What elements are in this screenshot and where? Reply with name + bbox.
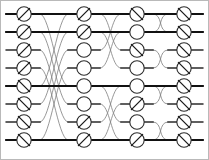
interstage-link bbox=[100, 86, 121, 122]
active-path-layer bbox=[6, 14, 203, 140]
switch-node-s3-r5[interactable] bbox=[130, 79, 144, 93]
switch-node-s4-r6[interactable] bbox=[177, 97, 191, 111]
switch-node-circle[interactable] bbox=[130, 61, 144, 75]
switch-node-layer bbox=[17, 7, 191, 147]
switch-node-s4-r1[interactable] bbox=[177, 7, 191, 21]
switch-node-s3-r4[interactable] bbox=[130, 61, 144, 75]
switch-node-s1-r8[interactable] bbox=[17, 133, 31, 147]
switch-node-s3-r3[interactable] bbox=[130, 43, 144, 57]
switch-node-s1-r5[interactable] bbox=[17, 79, 31, 93]
switch-node-s1-r7[interactable] bbox=[17, 115, 31, 129]
switch-node-s3-r2[interactable] bbox=[130, 25, 144, 39]
switch-node-s2-r1[interactable] bbox=[77, 7, 91, 21]
interstage-link bbox=[100, 104, 121, 140]
interstage-link bbox=[40, 14, 68, 86]
interstage-link bbox=[100, 32, 121, 68]
interstage-link bbox=[153, 14, 168, 32]
switch-node-s2-r3[interactable] bbox=[77, 43, 91, 57]
switch-node-s1-r3[interactable] bbox=[17, 43, 31, 57]
switch-node-s1-r1[interactable] bbox=[17, 7, 31, 21]
switch-node-s4-r7[interactable] bbox=[177, 115, 191, 129]
interstage-link bbox=[40, 32, 68, 104]
switch-node-s2-r5[interactable] bbox=[77, 79, 91, 93]
switch-node-circle[interactable] bbox=[77, 79, 91, 93]
interstage-link bbox=[40, 68, 68, 140]
switch-node-s3-r1[interactable] bbox=[130, 7, 144, 21]
interstage-link bbox=[153, 122, 168, 140]
switch-node-s1-r4[interactable] bbox=[17, 61, 31, 75]
switch-node-s1-r2[interactable] bbox=[17, 25, 31, 39]
switch-node-circle[interactable] bbox=[130, 79, 144, 93]
switch-node-s4-r5[interactable] bbox=[177, 79, 191, 93]
interstage-link bbox=[153, 86, 168, 104]
switch-node-s2-r8[interactable] bbox=[77, 133, 91, 147]
switch-node-circle[interactable] bbox=[77, 43, 91, 57]
switch-node-s2-r7[interactable] bbox=[77, 115, 91, 129]
interstage-link bbox=[153, 50, 168, 68]
figure-border bbox=[1, 1, 209, 160]
switch-node-s3-r8[interactable] bbox=[130, 133, 144, 147]
switch-node-circle[interactable] bbox=[130, 25, 144, 39]
switch-node-circle[interactable] bbox=[77, 61, 91, 75]
network-canvas bbox=[0, 0, 209, 160]
switch-node-s4-r3[interactable] bbox=[177, 43, 191, 57]
switch-node-s2-r4[interactable] bbox=[77, 61, 91, 75]
switch-node-s4-r4[interactable] bbox=[177, 61, 191, 75]
switch-node-s3-r7[interactable] bbox=[130, 115, 144, 129]
switch-node-circle[interactable] bbox=[77, 97, 91, 111]
switch-node-s4-r2[interactable] bbox=[177, 25, 191, 39]
network-diagram-figure: 8-line four-stage interconnection networ… bbox=[0, 0, 209, 160]
switch-node-circle[interactable] bbox=[130, 115, 144, 129]
switch-node-s2-r6[interactable] bbox=[77, 97, 91, 111]
switch-node-s3-r6[interactable] bbox=[130, 97, 144, 111]
switch-node-s1-r6[interactable] bbox=[17, 97, 31, 111]
switch-node-s4-r8[interactable] bbox=[177, 133, 191, 147]
switch-node-s2-r2[interactable] bbox=[77, 25, 91, 39]
